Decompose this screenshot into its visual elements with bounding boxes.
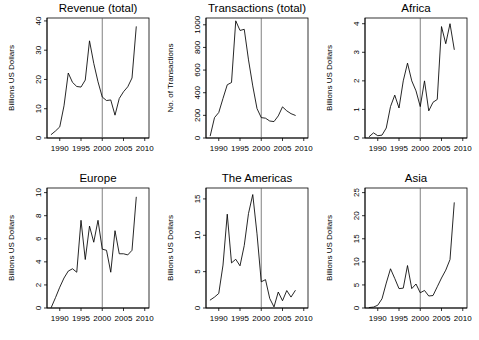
- x-tick-label: 2000: [252, 314, 270, 323]
- series-line: [369, 24, 454, 137]
- y-axis-title: Billions US Dollars: [325, 215, 334, 281]
- y-tick-label: 10: [352, 257, 361, 266]
- y-tick-label: 10: [34, 188, 43, 197]
- y-tick-label: 15: [193, 194, 202, 203]
- series-line: [51, 197, 136, 307]
- panel-title: Asia: [405, 172, 428, 184]
- y-axis-title: Billions US Dollars: [7, 45, 16, 111]
- x-tick-label: 1995: [231, 144, 249, 153]
- y-tick-label: 8: [34, 213, 43, 218]
- x-tick-label: 1995: [72, 144, 90, 153]
- y-tick-label: 4: [352, 21, 361, 26]
- chart-panel: Transactions (total)02004006008001000No.…: [159, 0, 318, 170]
- y-tick-label: 0: [193, 305, 202, 310]
- x-tick-label: 2000: [93, 314, 111, 323]
- x-tick-label: 2010: [295, 314, 313, 323]
- y-tick-label: 600: [193, 63, 202, 77]
- y-tick-label: 4: [34, 259, 43, 264]
- series-line: [210, 21, 295, 136]
- series-line: [369, 203, 454, 308]
- x-tick-label: 1990: [51, 144, 69, 153]
- y-tick-label: 0: [34, 305, 43, 310]
- chart-panel: Asia0510152025Billions US Dollars1990199…: [318, 170, 477, 340]
- y-tick-label: 40: [34, 16, 43, 25]
- plot-frame: [47, 18, 149, 138]
- y-axis-title: Billions US Dollars: [7, 215, 16, 281]
- y-tick-label: 5: [193, 269, 202, 274]
- y-tick-label: 0: [193, 135, 202, 140]
- chart-panel: Africa01234Billions US Dollars1990199520…: [318, 0, 477, 170]
- x-tick-label: 1995: [231, 314, 249, 323]
- y-tick-label: 25: [352, 188, 361, 197]
- y-tick-label: 0: [352, 305, 361, 310]
- x-tick-label: 2000: [252, 144, 270, 153]
- x-tick-label: 1995: [72, 314, 90, 323]
- panel-title: Transactions (total): [208, 2, 306, 14]
- y-tick-label: 1000: [193, 15, 202, 33]
- chart-panel: Revenue (total)010203040Billions US Doll…: [0, 0, 159, 170]
- y-tick-label: 20: [34, 74, 43, 83]
- x-tick-label: 1995: [390, 144, 408, 153]
- y-tick-label: 2: [352, 78, 361, 83]
- series-line: [210, 195, 295, 307]
- panel-title: The Americas: [222, 172, 293, 184]
- chart-panel: The Americas051015Billions US Dollars199…: [159, 170, 318, 340]
- y-tick-label: 6: [34, 236, 43, 241]
- y-tick-label: 2: [34, 282, 43, 287]
- x-tick-label: 1990: [210, 144, 228, 153]
- panel-title: Revenue (total): [59, 2, 138, 14]
- x-tick-label: 1995: [390, 314, 408, 323]
- x-tick-label: 1990: [369, 314, 387, 323]
- x-tick-label: 1990: [51, 314, 69, 323]
- y-tick-label: 20: [352, 211, 361, 220]
- y-tick-label: 0: [34, 135, 43, 140]
- y-axis-title: Billions US Dollars: [325, 45, 334, 111]
- y-tick-label: 800: [193, 40, 202, 54]
- plot-frame: [47, 188, 149, 308]
- x-tick-label: 2010: [295, 144, 313, 153]
- panel-title: Europe: [79, 172, 116, 184]
- y-axis-title: No. of Transactions: [166, 44, 175, 113]
- y-axis-title: Billions US Dollars: [166, 215, 175, 281]
- x-tick-label: 2010: [136, 314, 154, 323]
- x-tick-label: 1990: [369, 144, 387, 153]
- plot-frame: [365, 188, 467, 308]
- x-tick-label: 2005: [433, 314, 451, 323]
- multi-panel-figure: Revenue (total)010203040Billions US Doll…: [0, 0, 479, 340]
- x-tick-label: 2000: [411, 314, 429, 323]
- y-tick-label: 15: [352, 234, 361, 243]
- x-tick-label: 2010: [136, 144, 154, 153]
- y-tick-label: 10: [193, 230, 202, 239]
- y-tick-label: 30: [34, 45, 43, 54]
- x-tick-label: 2000: [93, 144, 111, 153]
- y-tick-label: 5: [352, 282, 361, 287]
- y-tick-label: 0: [352, 135, 361, 140]
- chart-panel: Europe0246810Billions US Dollars19901995…: [0, 170, 159, 340]
- x-tick-label: 2005: [274, 144, 292, 153]
- plot-frame: [206, 18, 308, 138]
- panel-title: Africa: [401, 2, 431, 14]
- x-tick-label: 2005: [274, 314, 292, 323]
- x-tick-label: 2005: [115, 314, 133, 323]
- plot-frame: [206, 188, 308, 308]
- x-tick-label: 2005: [433, 144, 451, 153]
- x-tick-label: 2000: [411, 144, 429, 153]
- y-tick-label: 400: [193, 85, 202, 99]
- y-tick-label: 10: [34, 104, 43, 113]
- x-tick-label: 2010: [454, 314, 472, 323]
- y-tick-label: 200: [193, 108, 202, 122]
- x-tick-label: 2010: [454, 144, 472, 153]
- series-line: [51, 27, 136, 135]
- x-tick-label: 2005: [115, 144, 133, 153]
- y-tick-label: 3: [352, 50, 361, 55]
- y-tick-label: 1: [352, 107, 361, 112]
- x-tick-label: 1990: [210, 314, 228, 323]
